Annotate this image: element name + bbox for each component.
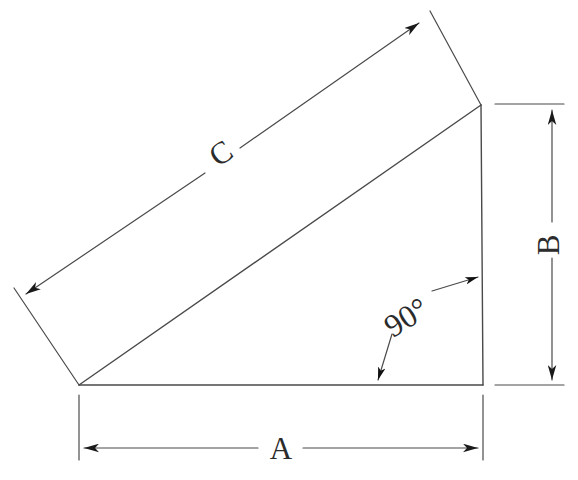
angle-leader-to-base (378, 334, 392, 380)
dimension-c-extension-upper (430, 11, 481, 105)
right-angle-label: 90° (377, 290, 434, 344)
dimension-c-extension-lower (14, 288, 79, 385)
dimension-c-line-right (240, 23, 419, 148)
dimension-b-label: B (531, 235, 566, 256)
triangle-side-b-vertical (481, 105, 483, 385)
triangle-outline (79, 105, 483, 385)
dimension-c-label: C (202, 133, 239, 174)
dimension-a: A (79, 395, 483, 466)
triangle-side-c-hypotenuse (79, 105, 481, 385)
dimension-b: B (495, 104, 566, 385)
right-angle-marker: 90° (377, 277, 478, 380)
dimension-a-label: A (270, 431, 293, 466)
geometry-figure-canvas: C B A 90° (0, 0, 578, 480)
right-triangle-diagram: C B A 90° (0, 0, 578, 480)
angle-leader-to-vertical (432, 277, 478, 291)
dimension-c-line-left (26, 173, 205, 294)
